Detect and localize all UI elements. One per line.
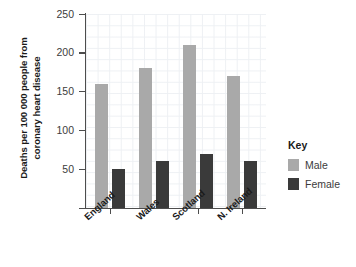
- y-tick-mark-50: [79, 169, 85, 170]
- bar-male-england: [95, 84, 108, 208]
- bar-male-wales: [139, 68, 152, 208]
- legend-title: Key: [288, 140, 354, 151]
- legend-label-female: Female: [305, 178, 340, 190]
- y-tick-label-150: 150: [34, 85, 74, 97]
- y-tick-mark-250: [79, 14, 85, 15]
- bar-female-england: [112, 169, 125, 208]
- bar-male-scotland: [183, 45, 196, 208]
- legend-item-male: Male: [288, 158, 354, 171]
- legend-label-male: Male: [305, 159, 328, 171]
- y-tick-mark-100: [79, 130, 85, 131]
- y-tick-label-200: 200: [34, 46, 74, 58]
- legend-swatch-female: [288, 178, 299, 190]
- y-tick-label-100: 100: [34, 124, 74, 136]
- y-axis-line: [85, 13, 86, 209]
- x-tick-mark-1: [110, 209, 111, 214]
- x-tick-mark-2: [198, 209, 199, 214]
- x-axis-line: [79, 208, 266, 209]
- x-tick-mark-3: [242, 209, 243, 214]
- y-axis-title-line-1: Deaths per 100 000 people from: [18, 37, 31, 179]
- y-tick-mark-150: [79, 91, 85, 92]
- y-tick-label-250: 250: [34, 8, 74, 20]
- y-axis-title: Deaths per 100 000 people from coronary …: [8, 0, 52, 215]
- y-tick-mark-200: [79, 52, 85, 53]
- y-tick-label-50: 50: [34, 163, 74, 175]
- plot-area: [86, 14, 266, 208]
- legend-item-female: Female: [288, 177, 354, 190]
- legend: Key Male Female: [288, 140, 354, 196]
- bar-male-nireland: [227, 76, 240, 208]
- bar-chart-figure: Deaths per 100 000 people from coronary …: [0, 0, 356, 267]
- legend-swatch-male: [288, 159, 299, 171]
